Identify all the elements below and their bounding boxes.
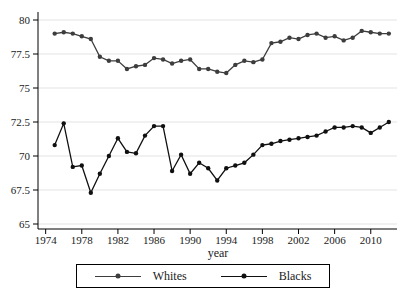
legend-label-whites: Whites bbox=[153, 270, 187, 282]
x-tick-label: 1998 bbox=[251, 234, 274, 246]
whites-data-point bbox=[80, 34, 84, 38]
blacks-data-point bbox=[161, 124, 165, 128]
blacks-data-point bbox=[188, 171, 192, 175]
whites-data-point bbox=[369, 30, 373, 34]
blacks-data-point bbox=[62, 121, 66, 125]
x-tick-label: 1978 bbox=[71, 234, 94, 246]
whites-data-point bbox=[296, 37, 300, 41]
whites-data-point bbox=[125, 67, 129, 71]
x-tick-label: 2010 bbox=[360, 234, 383, 246]
blacks-data-point bbox=[80, 163, 84, 167]
y-tick-label: 77.5 bbox=[11, 48, 31, 60]
blacks-data-point bbox=[314, 133, 318, 137]
whites-data-point bbox=[179, 59, 183, 63]
y-tick-label: 72.5 bbox=[11, 116, 31, 128]
blacks-data-point bbox=[251, 152, 255, 156]
x-tick-label: 1990 bbox=[179, 234, 202, 246]
whites-data-point bbox=[89, 37, 93, 41]
x-tick-label: 1974 bbox=[35, 234, 58, 246]
whites-data-point bbox=[143, 63, 147, 67]
whites-data-point bbox=[242, 59, 246, 63]
legend-label-blacks: Blacks bbox=[279, 270, 312, 282]
whites-data-point bbox=[278, 40, 282, 44]
blacks-data-point bbox=[278, 139, 282, 143]
blacks-data-point bbox=[125, 150, 129, 154]
blacks-data-point bbox=[215, 178, 219, 182]
blacks-data-point bbox=[206, 166, 210, 170]
whites-data-point bbox=[161, 57, 165, 61]
blacks-data-point bbox=[71, 165, 75, 169]
blacks-data-point bbox=[296, 136, 300, 140]
whites-data-point bbox=[341, 38, 345, 42]
whites-data-point bbox=[215, 69, 219, 73]
legend: Whites Blacks bbox=[0, 264, 406, 288]
blacks-data-point bbox=[350, 124, 354, 128]
whites-data-point bbox=[323, 35, 327, 39]
whites-data-point bbox=[287, 35, 291, 39]
whites-data-point bbox=[134, 64, 138, 68]
whites-data-point bbox=[233, 63, 237, 67]
blacks-data-point bbox=[152, 124, 156, 128]
x-tick-label: 2006 bbox=[324, 234, 347, 246]
blacks-data-point bbox=[179, 152, 183, 156]
legend-entry-blacks: Blacks bbox=[221, 270, 312, 282]
whites-data-point bbox=[387, 31, 391, 35]
whites-data-point bbox=[170, 61, 174, 65]
whites-data-point bbox=[332, 34, 336, 38]
blacks-data-point bbox=[360, 125, 364, 129]
whites-data-point bbox=[269, 41, 273, 45]
blacks-data-point bbox=[116, 136, 120, 140]
blacks-series-line bbox=[55, 122, 389, 193]
whites-data-point bbox=[197, 67, 201, 71]
x-tick-label: 1994 bbox=[215, 234, 238, 246]
blacks-data-point bbox=[332, 125, 336, 129]
blacks-data-point bbox=[197, 161, 201, 165]
blacks-data-point bbox=[260, 143, 264, 147]
blacks-data-point bbox=[323, 129, 327, 133]
y-tick-label: 65 bbox=[19, 218, 31, 230]
blacks-series-marker-icon bbox=[221, 272, 267, 281]
blacks-data-point bbox=[378, 125, 382, 129]
whites-data-point bbox=[251, 60, 255, 64]
y-tick-label: 67.5 bbox=[11, 184, 31, 196]
whites-data-point bbox=[107, 59, 111, 63]
whites-data-point bbox=[350, 35, 354, 39]
y-tick-label: 70 bbox=[19, 150, 31, 162]
x-tick-label: 2002 bbox=[288, 234, 310, 246]
whites-data-point bbox=[206, 67, 210, 71]
blacks-data-point bbox=[305, 135, 309, 139]
whites-data-point bbox=[116, 59, 120, 63]
y-tick-label: 75 bbox=[19, 82, 31, 94]
whites-series-marker-icon bbox=[95, 272, 141, 281]
whites-data-point bbox=[152, 56, 156, 60]
blacks-data-point bbox=[53, 143, 57, 147]
blacks-data-point bbox=[242, 161, 246, 165]
blacks-data-point bbox=[287, 137, 291, 141]
whites-data-point bbox=[378, 31, 382, 35]
whites-data-point bbox=[360, 29, 364, 33]
whites-data-point bbox=[260, 57, 264, 61]
x-tick-label: 1986 bbox=[143, 234, 166, 246]
whites-data-point bbox=[188, 57, 192, 61]
legend-box: Whites Blacks bbox=[76, 264, 331, 288]
blacks-data-point bbox=[369, 131, 373, 135]
whites-data-point bbox=[224, 71, 228, 75]
blacks-data-point bbox=[89, 191, 93, 195]
whites-series-line bbox=[55, 31, 389, 73]
whites-data-point bbox=[53, 31, 57, 35]
blacks-data-point bbox=[269, 142, 273, 146]
blacks-data-point bbox=[233, 163, 237, 167]
blacks-data-point bbox=[224, 166, 228, 170]
blacks-data-point bbox=[341, 125, 345, 129]
blacks-data-point bbox=[98, 171, 102, 175]
legend-entry-whites: Whites bbox=[95, 270, 187, 282]
whites-data-point bbox=[71, 31, 75, 35]
blacks-data-point bbox=[387, 120, 391, 124]
blacks-data-point bbox=[170, 169, 174, 173]
y-tick-label: 80 bbox=[19, 14, 31, 26]
whites-data-point bbox=[98, 55, 102, 59]
whites-data-point bbox=[305, 33, 309, 37]
whites-data-point bbox=[62, 30, 66, 34]
blacks-data-point bbox=[143, 133, 147, 137]
x-axis-label: year bbox=[38, 246, 398, 261]
